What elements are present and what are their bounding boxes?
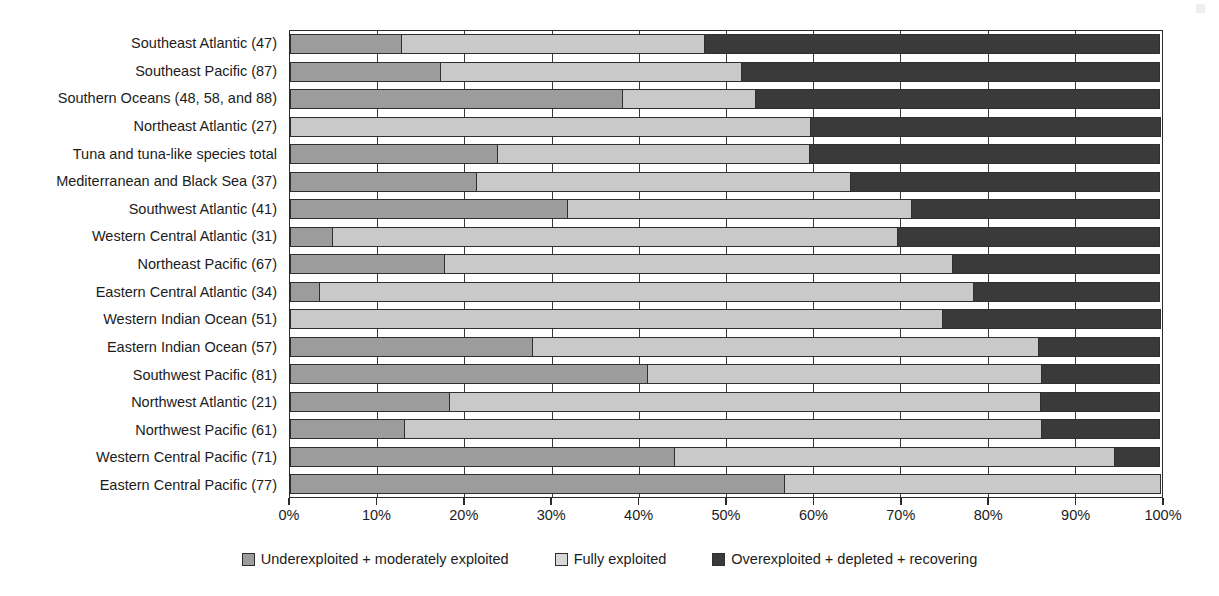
bar-segment-under: [290, 282, 320, 302]
x-axis-tick-label: 70%: [886, 507, 915, 523]
x-axis-tick: [813, 498, 815, 505]
bar-segment-under: [290, 34, 402, 54]
category-label: Western Indian Ocean (51): [0, 309, 283, 329]
legend-swatch-icon: [242, 553, 255, 566]
x-axis-tick-label: 50%: [711, 507, 740, 523]
bar-segment-fully: [444, 254, 953, 274]
bar-segment-fully: [622, 89, 755, 109]
x-axis-tick-label: 20%: [449, 507, 478, 523]
bar-segment-under: [290, 419, 405, 439]
bar-segment-under: [290, 364, 648, 384]
bar-segment-over: [1041, 419, 1160, 439]
bar-segment-under: [290, 254, 445, 274]
bar-row: [290, 282, 1162, 302]
bar-row: [290, 392, 1162, 412]
bar-segment-over: [755, 89, 1160, 109]
bar-segment-under: [290, 392, 450, 412]
category-label: Eastern Indian Ocean (57): [0, 337, 283, 357]
bar-segment-fully: [440, 62, 742, 82]
bar-row: [290, 254, 1162, 274]
bar-segment-under: [290, 447, 675, 467]
legend-label: Underexploited + moderately exploited: [261, 551, 509, 567]
bar-segment-fully: [332, 227, 898, 247]
category-axis-labels: Southeast Atlantic (47)Southeast Pacific…: [0, 30, 283, 498]
x-axis-tick: [463, 498, 465, 505]
bar-segment-under: [290, 337, 533, 357]
bar-row: [290, 337, 1162, 357]
bar-segment-under: [290, 172, 477, 192]
bar-segment-over: [850, 172, 1160, 192]
category-label: Northeast Pacific (67): [0, 254, 283, 274]
x-axis-tick-label: 0%: [279, 507, 300, 523]
bar-segment-over: [897, 227, 1160, 247]
x-axis-tick-label: 90%: [1061, 507, 1090, 523]
bar-segment-over: [952, 254, 1160, 274]
bar-row: [290, 227, 1162, 247]
x-axis-tick: [288, 498, 290, 505]
category-label: Northeast Atlantic (27): [0, 116, 283, 136]
x-axis-tick: [376, 498, 378, 505]
category-label: Southern Oceans (48, 58, and 88): [0, 88, 283, 108]
bar-row: [290, 89, 1162, 109]
bar-row: [290, 62, 1162, 82]
bar-segment-over: [704, 34, 1160, 54]
bar-segment-under: [290, 144, 498, 164]
x-axis-tick-label: 100%: [1144, 507, 1181, 523]
x-axis-tick-label: 10%: [362, 507, 391, 523]
bar-row: [290, 309, 1162, 329]
bar-row: [290, 34, 1162, 54]
bar-segment-under: [290, 474, 785, 494]
x-axis-tick: [725, 498, 727, 505]
bar-segment-over: [1114, 447, 1160, 467]
category-label: Tuna and tuna-like species total: [0, 144, 283, 164]
x-axis-tick: [638, 498, 640, 505]
bar-segment-fully: [532, 337, 1039, 357]
legend-item[interactable]: Overexploited + depleted + recovering: [712, 551, 977, 567]
bar-segment-under: [290, 62, 441, 82]
bar-segment-over: [810, 117, 1161, 137]
category-label: Southeast Atlantic (47): [0, 33, 283, 53]
bar-segment-over: [942, 309, 1161, 329]
bar-segment-over: [1041, 364, 1160, 384]
bar-segment-fully: [567, 199, 911, 219]
category-label: Northwest Atlantic (21): [0, 392, 283, 412]
bar-segment-fully: [647, 364, 1043, 384]
bar-segment-over: [973, 282, 1160, 302]
category-label: Southwest Atlantic (41): [0, 199, 283, 219]
x-axis-tick-label: 80%: [974, 507, 1003, 523]
scan-artifact: [1196, 4, 1205, 13]
bar-rows: [290, 31, 1162, 497]
category-label: Eastern Central Pacific (77): [0, 475, 283, 495]
bar-segment-under: [290, 199, 568, 219]
bar-row: [290, 419, 1162, 439]
bar-segment-over: [1038, 337, 1160, 357]
legend-item[interactable]: Fully exploited: [555, 551, 667, 567]
category-label: Eastern Central Atlantic (34): [0, 282, 283, 302]
category-label: Northwest Pacific (61): [0, 420, 283, 440]
x-axis-tick-label: 60%: [799, 507, 828, 523]
bar-row: [290, 117, 1162, 137]
category-label: Western Central Pacific (71): [0, 447, 283, 467]
x-axis: 0%10%20%30%40%50%60%70%80%90%100%: [289, 498, 1163, 528]
bar-row: [290, 199, 1162, 219]
legend-label: Overexploited + depleted + recovering: [731, 551, 977, 567]
bar-segment-fully: [290, 117, 811, 137]
stacked-bar-chart: Southeast Atlantic (47)Southeast Pacific…: [0, 0, 1219, 596]
x-axis-tick-label: 30%: [537, 507, 566, 523]
legend-swatch-icon: [555, 553, 568, 566]
bar-segment-fully: [404, 419, 1041, 439]
bar-row: [290, 474, 1162, 494]
bar-segment-fully: [319, 282, 974, 302]
bar-segment-fully: [449, 392, 1040, 412]
legend-item[interactable]: Underexploited + moderately exploited: [242, 551, 509, 567]
category-label: Southwest Pacific (81): [0, 365, 283, 385]
bar-row: [290, 447, 1162, 467]
bar-segment-under: [290, 227, 333, 247]
x-axis-tick: [1162, 498, 1164, 505]
bar-segment-fully: [290, 309, 943, 329]
category-label: Southeast Pacific (87): [0, 61, 283, 81]
x-axis-tick: [550, 498, 552, 505]
bar-row: [290, 364, 1162, 384]
bar-segment-over: [809, 144, 1160, 164]
bar-segment-over: [1040, 392, 1160, 412]
